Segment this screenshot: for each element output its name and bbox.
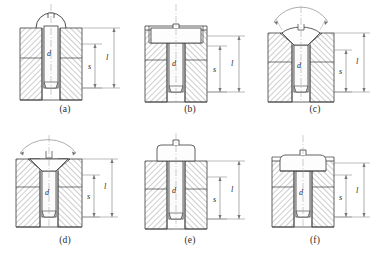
dimension-s: s	[82, 44, 102, 88]
dimension-l-label: l	[231, 59, 234, 68]
figure-sheet: s l d (a)	[0, 0, 380, 257]
figure-c-caption: (c)	[252, 104, 378, 114]
figure-a-drawing: s l d	[2, 0, 128, 110]
figure-e-caption: (e)	[127, 235, 253, 245]
figure-f: s l d (f)	[252, 129, 378, 257]
figure-d: s l d (d)	[2, 129, 128, 257]
figure-f-drawing: s l d	[252, 129, 378, 239]
dimension-s-label: s	[87, 192, 90, 201]
figure-a-caption: (a)	[2, 104, 128, 114]
dimension-l-label: l	[106, 53, 109, 62]
figure-b: s l d (b)	[127, 0, 253, 128]
dimension-l: l	[334, 163, 370, 217]
dimension-l: l	[207, 161, 245, 219]
dimension-l: l	[334, 33, 370, 92]
dimension-l-label: l	[104, 182, 107, 191]
dimension-l-label: l	[356, 186, 359, 195]
dimension-l: l	[82, 28, 120, 88]
dimension-s-label: s	[339, 67, 342, 76]
figure-e: s l d (e)	[127, 129, 253, 257]
figure-d-drawing: s l d	[2, 129, 128, 239]
dimension-l-label: l	[231, 185, 234, 194]
dimension-l: l	[82, 159, 118, 217]
figure-f-caption: (f)	[252, 235, 378, 245]
dimension-l: l	[207, 36, 245, 92]
dimension-s: s	[334, 50, 352, 92]
dimension-s: s	[207, 46, 227, 92]
dimension-s-label: s	[213, 65, 216, 74]
figure-d-caption: (d)	[2, 235, 128, 245]
dimension-s: s	[334, 175, 352, 217]
dimension-s-label: s	[88, 62, 91, 71]
dimension-s-label: s	[339, 193, 342, 202]
dimension-s: s	[207, 177, 227, 219]
figure-c: s l d (c)	[252, 0, 378, 128]
figure-c-drawing: s l d	[252, 0, 378, 110]
dimension-l-label: l	[356, 57, 359, 66]
figure-b-caption: (b)	[127, 104, 253, 114]
figure-e-drawing: s l d	[127, 129, 253, 239]
figure-b-drawing: s l d	[127, 0, 253, 110]
dimension-s-label: s	[213, 195, 216, 204]
figure-a: s l d (a)	[2, 0, 128, 128]
dimension-s: s	[82, 175, 100, 217]
